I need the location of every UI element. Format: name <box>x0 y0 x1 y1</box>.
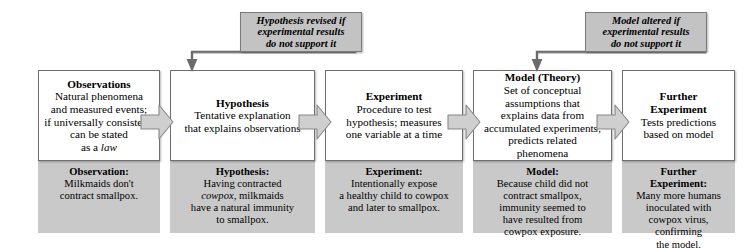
model-example-line-5: cowpox exposure. <box>504 226 581 238</box>
further-experiment-example-box: Further Experiment: Many more humans ino… <box>622 161 735 233</box>
experiment-line-1: Procedure to test <box>356 103 431 116</box>
loop1-line-2: experimental results <box>258 26 345 38</box>
stage-observations: Observations Natural phenomena and measu… <box>38 70 160 233</box>
experiment-example-line-2: a healthy child to cowpox <box>339 190 448 202</box>
hypothesis-example-line-4: to smallpox. <box>216 214 268 226</box>
experiment-example-title: Experiment: <box>365 166 422 178</box>
arrow-observations-to-hypothesis <box>140 103 174 141</box>
observations-line-1: Natural phenomena <box>55 90 143 103</box>
model-line-4: accumulated experiments; <box>484 122 601 135</box>
model-example-box: Model: Because child did not contract sm… <box>473 161 612 233</box>
feedback-loop-1-label: Hypothesis revised if experimental resul… <box>240 12 362 52</box>
observations-line-5: as a law <box>81 141 117 154</box>
arrow-model-to-further-experiment <box>596 103 630 141</box>
hypothesis-title: Hypothesis <box>216 97 269 110</box>
further-experiment-example-title-line-2: Experiment: <box>650 178 707 190</box>
further-experiment-definition-box: Further Experiment Tests predictions bas… <box>622 70 735 161</box>
observations-example-line-2: contract smallpox. <box>60 190 138 202</box>
experiment-example-box: Experiment: Intentionally expose a healt… <box>325 161 463 233</box>
loop2-line-2: experimental results <box>603 26 690 38</box>
stage-model-theory: Model (Theory) Set of conceptual assumpt… <box>473 70 612 233</box>
model-example-line-1: Because child did not <box>497 178 589 190</box>
stage-experiment: Experiment Procedure to test hypothesis;… <box>325 70 463 233</box>
scientific-method-diagram: Hypothesis revised if experimental resul… <box>0 0 747 248</box>
model-line-5: predicts related <box>508 134 577 147</box>
observations-title: Observations <box>67 78 130 91</box>
experiment-line-2: hypothesis; measures <box>346 116 441 129</box>
further-experiment-example-line-3: cowpox virus, confirming <box>625 214 732 238</box>
further-experiment-example-title-line-1: Further <box>661 166 697 178</box>
further-experiment-example-line-2: inoculated with <box>646 202 712 214</box>
observations-line-4: can be stated <box>70 128 128 141</box>
further-experiment-title-line-1: Further <box>660 90 698 103</box>
observations-line-3: if universally consistent, <box>44 116 154 129</box>
model-definition-box: Model (Theory) Set of conceptual assumpt… <box>473 70 612 161</box>
further-experiment-line-2: based on model <box>643 128 713 141</box>
loop2-line-1: Model altered if <box>612 15 680 27</box>
observations-example-line-1: Milkmaids don't <box>64 178 133 190</box>
model-example-line-2: contract smallpox, <box>503 190 581 202</box>
hypothesis-cowpox-italic: cowpox <box>201 190 233 201</box>
further-experiment-line-1: Tests predictions <box>641 116 716 129</box>
model-example-line-3: immunity seemed to <box>499 202 586 214</box>
loop1-line-1: Hypothesis revised if <box>257 15 346 27</box>
further-experiment-title-line-2: Experiment <box>650 103 707 116</box>
stage-further-experiment: Further Experiment Tests predictions bas… <box>622 70 735 233</box>
model-example-line-4: have resulted from <box>503 214 582 226</box>
loop1-line-3: do not support it <box>266 38 336 50</box>
hypothesis-example-line-2: cowpox, milkmaids <box>201 190 283 202</box>
hypothesis-example-title: Hypothesis: <box>216 166 270 178</box>
observations-law-prefix: as a <box>81 141 101 153</box>
model-line-3: explains data from <box>501 109 584 122</box>
experiment-line-3: one variable at a time <box>346 128 442 141</box>
model-line-6: phenomena <box>517 147 569 160</box>
hypothesis-definition-box: Hypothesis Tentative explanation that ex… <box>170 70 315 161</box>
observations-example-box: Observation: Milkmaids don't contract sm… <box>38 161 160 233</box>
model-example-title: Model: <box>526 166 558 178</box>
observations-example-title: Observation: <box>69 166 128 178</box>
experiment-example-line-3: and later to smallpox. <box>348 202 440 214</box>
loop2-line-3: do not support it <box>611 38 681 50</box>
observations-line-2: and measured events; <box>51 103 147 116</box>
experiment-definition-box: Experiment Procedure to test hypothesis;… <box>325 70 463 161</box>
stage-hypothesis: Hypothesis Tentative explanation that ex… <box>170 70 315 233</box>
arrow-experiment-to-model <box>447 103 481 141</box>
hypothesis-line-2: that explains observations <box>184 122 300 135</box>
hypothesis-line-1: Tentative explanation <box>194 109 290 122</box>
observations-law-word: law <box>101 141 117 153</box>
further-experiment-example-line-4: the model. <box>656 239 701 248</box>
arrow-hypothesis-to-experiment <box>298 103 332 141</box>
hypothesis-example-box: Hypothesis: Having contracted cowpox, mi… <box>170 161 315 233</box>
further-experiment-example-line-1: Many more humans <box>636 190 721 202</box>
model-line-2: assumptions that <box>505 97 580 110</box>
experiment-example-line-1: Intentionally expose <box>351 178 437 190</box>
hypothesis-example-line-1: Having contracted <box>204 178 282 190</box>
experiment-title: Experiment <box>366 90 423 103</box>
model-line-1: Set of conceptual <box>504 84 582 97</box>
feedback-loop-2-label: Model altered if experimental results do… <box>585 12 707 52</box>
hypothesis-example-line-3: have a natural immunity <box>191 202 294 214</box>
